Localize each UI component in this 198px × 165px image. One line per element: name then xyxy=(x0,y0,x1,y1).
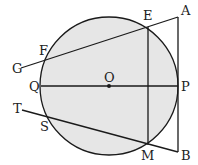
label-T: T xyxy=(13,101,22,116)
circle-diagram: O Q P E A F G T S M B xyxy=(0,0,198,165)
label-F: F xyxy=(39,43,48,58)
label-E: E xyxy=(143,8,153,23)
label-P: P xyxy=(181,79,190,94)
label-S: S xyxy=(40,119,49,134)
label-G: G xyxy=(12,61,22,76)
label-M: M xyxy=(141,148,154,163)
label-O: O xyxy=(104,70,115,85)
label-Q: Q xyxy=(29,79,40,94)
label-A: A xyxy=(180,3,191,18)
label-B: B xyxy=(181,148,191,163)
